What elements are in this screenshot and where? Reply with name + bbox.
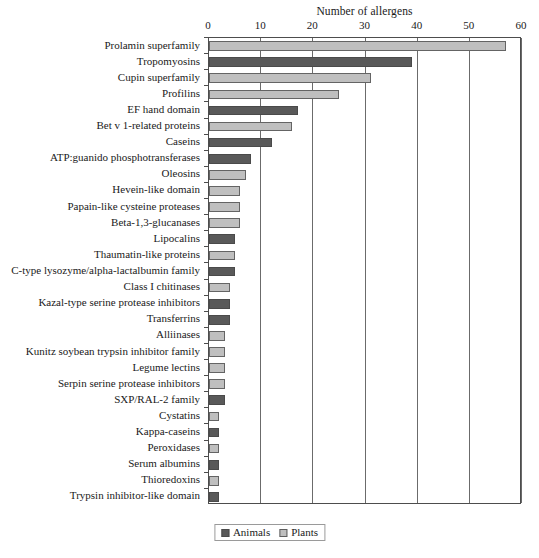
y-category-label: Tropomyosins [0, 56, 204, 67]
bar-row [209, 444, 520, 454]
bar [209, 154, 251, 164]
legend-label-animals: Animals [233, 527, 270, 538]
x-tick-label: 20 [307, 19, 318, 31]
bar [209, 460, 219, 470]
bar [209, 41, 506, 51]
bar-row [209, 283, 520, 293]
y-category-label: Bet v 1-related proteins [0, 120, 204, 131]
y-category-label: Caseins [0, 136, 204, 147]
legend-swatch-animals [221, 529, 229, 537]
bar-row [209, 251, 520, 261]
bar-row [209, 218, 520, 228]
y-category-label: Thaumatin-like proteins [0, 249, 204, 260]
bar [209, 331, 225, 341]
y-category-label: Legume lectins [0, 362, 204, 373]
y-category-label: Cystatins [0, 410, 204, 421]
bar-row [209, 395, 520, 405]
chart-legend: Animals Plants [214, 524, 325, 541]
bar-row [209, 492, 520, 502]
y-category-label: C-type lysozyme/alpha-lactalbumin family [0, 265, 204, 276]
bar-row [209, 41, 520, 51]
legend-swatch-plants [279, 529, 287, 537]
gridline [521, 38, 522, 503]
bar-row [209, 347, 520, 357]
bar [209, 267, 235, 277]
bar-row [209, 460, 520, 470]
bar [209, 170, 246, 180]
y-category-label: Profilins [0, 88, 204, 99]
x-tick-label: 0 [205, 19, 211, 31]
y-axis-category-labels: Prolamin superfamilyTropomyosinsCupin su… [0, 37, 204, 504]
bar [209, 428, 219, 438]
y-category-label: Transferrins [0, 313, 204, 324]
bar-row [209, 73, 520, 83]
x-tick-label: 30 [359, 19, 370, 31]
bar-row [209, 138, 520, 148]
y-category-label: Kunitz soybean trypsin inhibitor family [0, 346, 204, 357]
allergen-protein-family-bar-chart: Number of allergens 0102030405060 Prolam… [0, 0, 539, 558]
chart-axis-title: Number of allergens [208, 5, 521, 17]
y-category-label: Peroxidases [0, 442, 204, 453]
bar-row [209, 331, 520, 341]
bar [209, 90, 339, 100]
bar [209, 283, 230, 293]
bar [209, 395, 225, 405]
y-category-label: EF hand domain [0, 104, 204, 115]
bar [209, 476, 219, 486]
y-category-label: Thioredoxins [0, 474, 204, 485]
bar-row [209, 202, 520, 212]
x-tick-label: 50 [463, 19, 474, 31]
bar [209, 186, 240, 196]
x-tick-label: 10 [255, 19, 266, 31]
bar [209, 492, 219, 502]
bar [209, 412, 219, 422]
bar [209, 347, 225, 357]
bar-row [209, 57, 520, 67]
bar [209, 363, 225, 373]
y-category-label: Hevein-like domain [0, 184, 204, 195]
bar [209, 138, 272, 148]
bar-row [209, 299, 520, 309]
y-category-label: Papain-like cysteine proteases [0, 201, 204, 212]
bar-row [209, 186, 520, 196]
y-category-label: Cupin superfamily [0, 72, 204, 83]
bar [209, 218, 240, 228]
y-category-label: Prolamin superfamily [0, 40, 204, 51]
bar-row [209, 379, 520, 389]
bar [209, 251, 235, 261]
bar-row [209, 412, 520, 422]
x-tick-label: 40 [411, 19, 422, 31]
y-category-label: Oleosins [0, 168, 204, 179]
bar-row [209, 267, 520, 277]
bar [209, 202, 240, 212]
y-category-label: Lipocalins [0, 233, 204, 244]
y-category-label: Serpin serine protease inhibitors [0, 378, 204, 389]
bar-row [209, 234, 520, 244]
bar [209, 299, 230, 309]
bar [209, 379, 225, 389]
bar [209, 234, 235, 244]
x-axis-tick-labels: 0102030405060 [208, 19, 521, 33]
y-category-label: Kappa-caseins [0, 426, 204, 437]
bar-row [209, 106, 520, 116]
y-category-label: Trypsin inhibitor-like domain [0, 490, 204, 501]
bar [209, 73, 371, 83]
legend-item-plants: Plants [279, 527, 318, 538]
bar [209, 57, 412, 67]
y-category-label: Serum albumins [0, 458, 204, 469]
bar [209, 122, 292, 132]
legend-item-animals: Animals [221, 527, 270, 538]
bar [209, 106, 298, 116]
bar [209, 444, 219, 454]
y-category-label: SXP/RAL-2 family [0, 394, 204, 405]
y-category-label: Alliinases [0, 329, 204, 340]
bar-row [209, 428, 520, 438]
bar-row [209, 315, 520, 325]
bar-row [209, 154, 520, 164]
y-category-label: ATP:guanido phosphotransferases [0, 152, 204, 163]
x-tick-label: 60 [516, 19, 527, 31]
y-category-label: Kazal-type serine protease inhibitors [0, 297, 204, 308]
bar-row [209, 363, 520, 373]
legend-label-plants: Plants [291, 527, 318, 538]
bar-rows [209, 38, 520, 503]
